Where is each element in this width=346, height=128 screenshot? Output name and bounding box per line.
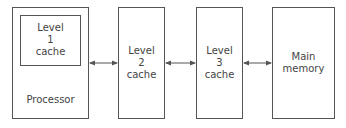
connector-arrows	[0, 0, 346, 128]
